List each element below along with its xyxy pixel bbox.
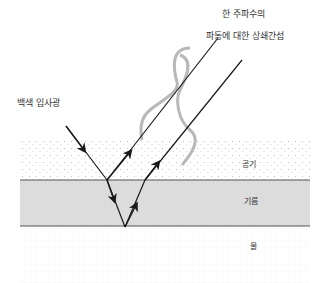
incident-light-label: 백색 입사광 xyxy=(17,96,60,109)
oil-layer xyxy=(20,180,310,226)
diagram-canvas xyxy=(0,0,320,283)
oil-label: 기름 xyxy=(244,195,258,206)
air-layer xyxy=(20,138,310,180)
thin-film-interference-diagram: 한 주파수의 파동에 대한 상쇄간섭 백색 입사광 공기 기름 물 xyxy=(0,0,320,283)
water-layer xyxy=(20,227,310,283)
water-label: 물 xyxy=(250,240,257,251)
title-line-2: 파동에 대한 상쇄간섭 xyxy=(206,29,284,42)
title-line-1: 한 주파수의 xyxy=(222,7,265,20)
air-label: 공기 xyxy=(242,158,256,169)
